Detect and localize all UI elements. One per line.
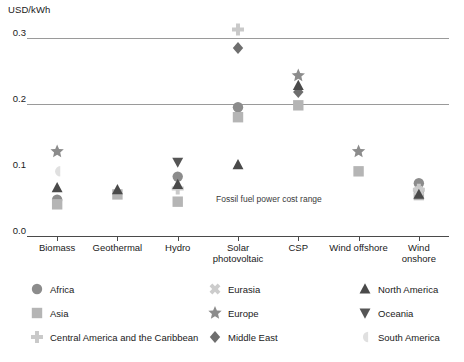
x-axis-tick	[419, 237, 420, 241]
legend-item-label: South America	[378, 332, 440, 343]
x-axis-label: Wind onshore	[374, 242, 464, 264]
fossil-fuel-range-annotation: Fossil fuel power cost range	[216, 194, 322, 204]
data-point	[352, 145, 365, 158]
data-point	[414, 190, 424, 200]
data-point	[233, 159, 244, 169]
gridline	[27, 104, 449, 105]
legend-item-label: Asia	[50, 308, 68, 319]
legend-item[interactable]: North America	[354, 278, 438, 300]
legend-item[interactable]: Asia	[26, 302, 68, 324]
x-axis-tick	[298, 237, 299, 241]
data-point	[172, 179, 183, 189]
gridline	[27, 38, 449, 39]
legend-item-label: Central America and the Caribbean	[50, 332, 198, 343]
legend-item[interactable]: Middle East	[204, 326, 278, 348]
data-point	[52, 182, 63, 192]
legend-item-label: Eurasia	[228, 284, 260, 295]
y-axis-tick-label: 0.0	[0, 225, 26, 236]
legend-item[interactable]: Eurasia	[204, 278, 260, 300]
legend-marker-icon	[26, 280, 48, 298]
legend-item-label: North America	[378, 284, 438, 295]
x-axis-tick	[359, 237, 360, 241]
data-point	[52, 195, 62, 205]
x-axis-tick	[178, 237, 179, 241]
legend-item[interactable]: Oceania	[354, 302, 413, 324]
legend-marker-icon	[204, 280, 226, 298]
y-axis-title: USD/kWh	[8, 4, 50, 15]
data-point	[172, 158, 183, 168]
data-point	[52, 199, 62, 209]
legend-item-label: Oceania	[378, 308, 413, 319]
legend-item-label: Europe	[228, 308, 259, 319]
data-point	[55, 166, 60, 176]
data-point	[411, 183, 427, 199]
legend-item[interactable]: Central America and the Caribbean	[26, 326, 198, 348]
data-point	[50, 145, 63, 158]
y-axis-tick-label: 0.2	[0, 93, 26, 104]
legend-marker-icon	[204, 304, 226, 322]
data-point	[173, 196, 183, 206]
data-point	[233, 112, 243, 122]
data-point	[112, 189, 122, 199]
legend-item-label: Middle East	[228, 332, 278, 343]
data-point	[232, 23, 244, 35]
legend-item[interactable]: Europe	[204, 302, 259, 324]
data-point	[413, 184, 425, 196]
legend-item-label: Africa	[50, 284, 74, 295]
data-point	[293, 86, 303, 98]
legend-marker-icon	[354, 304, 376, 322]
legend-item[interactable]: Africa	[26, 278, 74, 300]
data-point	[293, 80, 304, 90]
x-axis-tick	[238, 237, 239, 241]
legend-marker-icon	[26, 328, 48, 346]
data-point	[172, 183, 184, 195]
data-point	[353, 166, 363, 176]
data-point	[112, 184, 123, 194]
data-point	[414, 178, 424, 188]
data-point	[413, 189, 424, 199]
legend-marker-icon	[354, 280, 376, 298]
legend-marker-icon	[354, 328, 376, 346]
data-point	[293, 100, 303, 110]
chart-container: USD/kWh 0.00.10.20.3 BiomassGeothermalHy…	[0, 0, 464, 362]
x-axis-tick	[57, 237, 58, 241]
data-point	[292, 69, 305, 82]
data-point	[233, 42, 243, 54]
legend-item[interactable]: South America	[354, 326, 440, 348]
x-axis-tick	[117, 237, 118, 241]
y-axis-tick-label: 0.3	[0, 27, 26, 38]
legend-marker-icon	[204, 328, 226, 346]
data-point	[173, 171, 183, 181]
y-axis-tick-label: 0.1	[0, 159, 26, 170]
legend-marker-icon	[26, 304, 48, 322]
